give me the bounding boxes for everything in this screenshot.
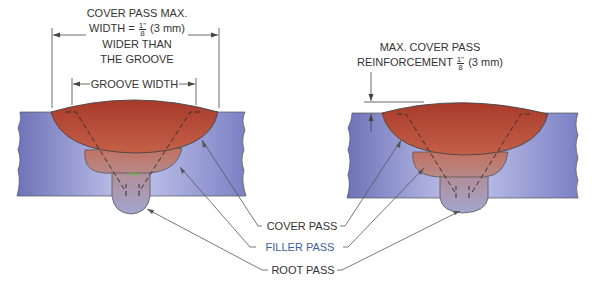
reinforcement-prefix: REINFORCEMENT xyxy=(357,56,453,68)
cover-width-prefix: WIDTH = xyxy=(89,22,135,34)
cover-width-line4: THE GROOVE xyxy=(82,52,192,67)
root-pass-label: ROOT PASS xyxy=(270,263,336,278)
fraction-one-eighth: 1"8 xyxy=(139,22,146,37)
left-root-pass xyxy=(112,170,150,214)
right-filler-pass xyxy=(413,152,508,177)
right-weld-joint xyxy=(347,72,578,213)
cover-width-label: COVER PASS MAX. WIDTH = 1"8 (3 mm) WIDER… xyxy=(82,6,192,67)
filler-pass-label: FILLER PASS xyxy=(258,240,342,255)
fraction-denominator: 8 xyxy=(457,64,464,71)
reinforcement-suffix: (3 mm) xyxy=(468,56,503,68)
reinforcement-label: MAX. COVER PASS REINFORCEMENT 1"8 (3 mm) xyxy=(355,40,505,71)
right-root-pass xyxy=(440,174,488,213)
cover-width-line3: WIDER THAN xyxy=(82,37,192,52)
cover-pass-label: COVER PASS xyxy=(264,219,340,234)
groove-width-label: GROOVE WIDTH xyxy=(90,77,179,92)
cover-width-line1: COVER PASS MAX. xyxy=(82,6,192,21)
cover-width-line2: WIDTH = 1"8 (3 mm) xyxy=(82,21,192,37)
cover-width-suffix: (3 mm) xyxy=(150,22,185,34)
fraction-one-eighth: 1"8 xyxy=(457,56,464,71)
reinforcement-line2: REINFORCEMENT 1"8 (3 mm) xyxy=(355,55,505,71)
fraction-denominator: 8 xyxy=(139,30,146,37)
reinforcement-line1: MAX. COVER PASS xyxy=(355,40,505,55)
